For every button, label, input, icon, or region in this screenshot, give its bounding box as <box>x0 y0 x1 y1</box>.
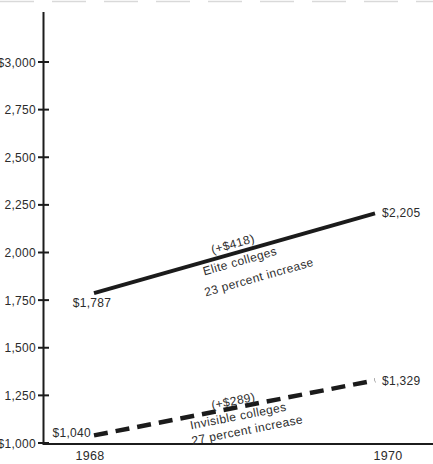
y-tick-label-1250: 1,250 <box>4 389 36 403</box>
invisible-series-annotation: (+$289) Invisible colleges 27 percent in… <box>189 390 304 448</box>
y-tick-label-2250: 2,250 <box>4 198 36 212</box>
y-tick-label-2750: 2,750 <box>4 103 36 117</box>
elite-end-value-label: $2,205 <box>382 206 421 220</box>
x-tick-label-1968: 1968 <box>75 449 104 463</box>
y-tick-label-1750: 1,750 <box>4 294 36 308</box>
x-tick-label-1970: 1970 <box>373 449 402 463</box>
y-tick-label-3000: $3,000 <box>0 56 36 70</box>
x-axis-labels: 1968 1970 <box>75 449 402 463</box>
y-axis-ticks: $3,0002,7502,5002,2502,0001,7501,5001,25… <box>0 56 49 451</box>
elite-series-annotation: (+$418) Elite colleges 23 percent increa… <box>201 231 315 299</box>
chart-page: $3,0002,7502,5002,2502,0001,7501,5001,25… <box>0 0 433 464</box>
y-tick-label-1000: $1,000 <box>0 437 36 451</box>
invisible-start-value-label: $1,040 <box>52 426 91 440</box>
y-tick-label-2500: 2,500 <box>4 151 36 165</box>
invisible-end-value-label: $1,329 <box>382 374 421 388</box>
y-tick-label-2000: 2,000 <box>4 246 36 260</box>
y-tick-label-1500: 1,500 <box>4 341 36 355</box>
tuition-line-chart: $3,0002,7502,5002,2502,0001,7501,5001,25… <box>0 0 433 464</box>
axes <box>43 12 433 444</box>
elite-start-value-label: $1,787 <box>73 296 112 310</box>
